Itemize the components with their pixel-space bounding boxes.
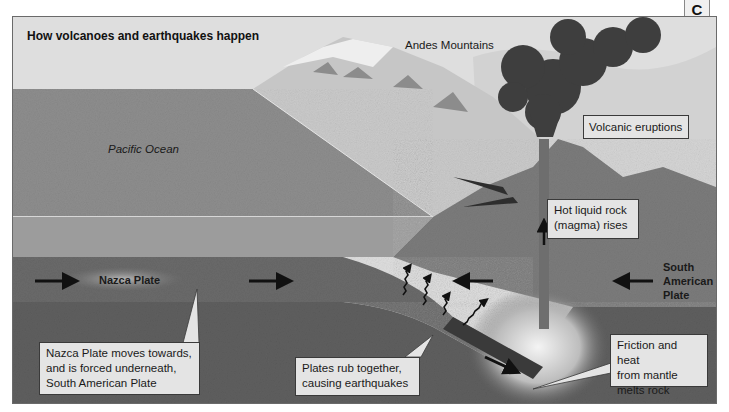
callout-volcanic-eruptions: Volcanic eruptions (583, 115, 689, 139)
label-south-american-plate: South American Plate (663, 260, 713, 302)
label-pacific-ocean: Pacific Ocean (108, 143, 179, 155)
ocean-water-section (13, 217, 433, 257)
callout-earthquakes: Plates rub together, causing earthquakes (295, 357, 420, 396)
callout-friction-heat: Friction and heat from mantle melts rock (610, 334, 708, 387)
label-andes-mountains: Andes Mountains (405, 39, 494, 51)
diagram-title: How volcanoes and earthquakes happen (27, 29, 259, 43)
diagram-frame: How volcanoes and earthquakes happen Pac… (12, 16, 717, 404)
callout-magma-rises: Hot liquid rock (magma) rises (547, 199, 639, 239)
callout-nazca-subduction: Nazca Plate moves towards, and is forced… (39, 342, 200, 395)
label-nazca-plate: Nazca Plate (99, 273, 160, 287)
